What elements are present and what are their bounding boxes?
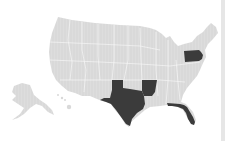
us-choropleth-map [0, 0, 225, 141]
right-edge-shadow [221, 0, 225, 141]
state-pennsylvania[interactable] [184, 50, 203, 62]
alaska [12, 83, 54, 120]
hawaii [57, 94, 71, 109]
state-florida[interactable] [167, 103, 195, 125]
